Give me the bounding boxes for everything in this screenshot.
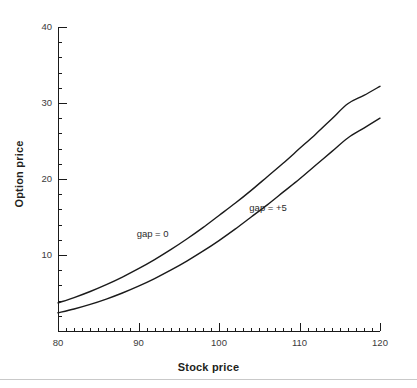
y-axis-title: Option price (13, 114, 25, 234)
x-tick-label: 110 (285, 337, 315, 348)
y-tick-label: 10 (28, 249, 52, 260)
x-tick-label: 80 (43, 337, 73, 348)
x-axis-title: Stock price (0, 361, 417, 373)
y-tick-label: 20 (28, 173, 52, 184)
chart-ticks (58, 28, 381, 332)
series-line-1 (58, 86, 380, 303)
chart-axes (58, 27, 380, 332)
line-chart-plot (0, 0, 417, 388)
y-tick-label: 30 (28, 97, 52, 108)
series-label-2: gap = +5 (249, 202, 287, 213)
x-tick-label: 90 (124, 337, 154, 348)
footer-divider (0, 379, 417, 380)
chart-figure: 8090100110120 10203040 gap = 0gap = +5 S… (0, 0, 417, 388)
x-tick-label: 100 (204, 337, 234, 348)
y-tick-label: 40 (28, 21, 52, 32)
x-tick-label: 120 (365, 337, 395, 348)
chart-curves (58, 86, 380, 312)
series-label-1: gap = 0 (137, 228, 169, 239)
